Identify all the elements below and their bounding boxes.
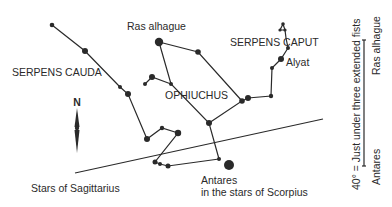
star <box>82 48 88 54</box>
star <box>217 157 221 161</box>
ecliptic-line <box>75 119 323 173</box>
label-ras-alhague: Ras alhague <box>127 20 186 32</box>
star <box>153 160 158 165</box>
star <box>175 130 181 136</box>
scale-bottom-label: Antares <box>370 149 382 185</box>
star <box>125 91 131 97</box>
label-serpens-cauda: SERPENS CAUDA <box>12 66 102 78</box>
star <box>206 120 212 126</box>
star-alyat <box>278 56 284 62</box>
ophiuchus-arm-lines <box>145 77 171 84</box>
star <box>278 28 281 31</box>
label-antares: Antares <box>201 174 237 186</box>
scale-caption: 40° = Just under three extended fists <box>350 19 362 190</box>
star <box>149 74 155 80</box>
star <box>239 98 245 104</box>
star <box>270 66 274 70</box>
label-alyat: Alyat <box>286 56 309 68</box>
star <box>195 49 201 55</box>
star <box>143 82 147 86</box>
star-antares <box>224 160 234 170</box>
star <box>283 28 286 31</box>
north-arrow-icon: N <box>73 96 81 153</box>
label-scorpius: in the stars of Scorpius <box>201 186 308 198</box>
star <box>158 162 162 166</box>
star <box>166 164 171 169</box>
star <box>118 85 122 89</box>
star <box>50 23 55 28</box>
compass-north-label: N <box>73 96 81 108</box>
star <box>160 126 164 130</box>
star <box>281 22 285 26</box>
label-ophiuchus: OPHIUCHUS <box>165 89 228 101</box>
star-ras-alhague <box>155 38 163 46</box>
label-serpens-caput: SERPENS CAPUT <box>230 36 319 48</box>
label-sagittarius: Stars of Sagittarius <box>31 182 120 194</box>
angular-scale: 40° = Just under three extended fists Ra… <box>350 16 382 190</box>
star <box>144 136 150 142</box>
star <box>245 95 251 101</box>
scale-top-label: Ras alhague <box>370 16 382 75</box>
ophiuchus-star-chart: N SERPENS CAUDA Ras alhague SERPENS CAPU… <box>0 0 392 207</box>
star <box>269 94 273 98</box>
star <box>169 82 173 86</box>
